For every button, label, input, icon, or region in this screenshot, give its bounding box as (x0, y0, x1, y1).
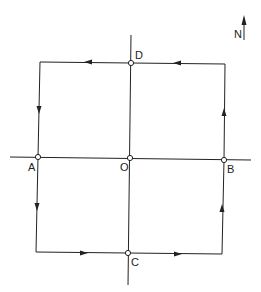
label-d: D (135, 50, 143, 61)
arrow-north-icon (220, 204, 225, 212)
arrow-south-icon (35, 203, 40, 211)
point-a-marker (35, 154, 40, 159)
arrow-east-icon (174, 252, 182, 257)
arrow-north-icon (222, 108, 227, 116)
point-o-marker (127, 155, 132, 160)
arrow-east-icon (80, 251, 88, 256)
diagram-canvas: N D A O B C (0, 0, 261, 292)
arrow-south-icon (37, 106, 42, 114)
north-arrow-icon (242, 15, 247, 25)
point-b-marker (221, 157, 226, 162)
label-b: B (227, 164, 234, 175)
point-c-marker (125, 250, 130, 255)
arrow-west-icon (173, 61, 181, 66)
label-o: O (120, 162, 129, 173)
label-a: A (28, 162, 35, 173)
route-diagram (0, 0, 261, 292)
label-c: C (131, 257, 139, 268)
point-d-marker (128, 60, 133, 65)
compass-label: N (234, 29, 242, 40)
arrow-west-icon (84, 60, 92, 65)
